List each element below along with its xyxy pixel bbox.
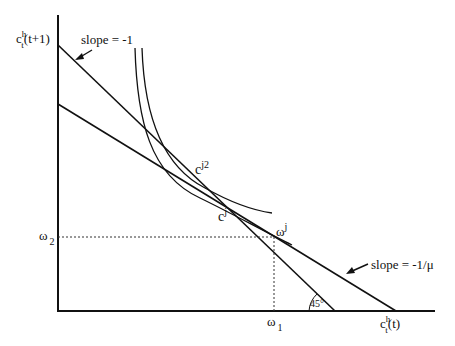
arrow-slope-flat	[346, 264, 368, 274]
omega2-label: ω2	[39, 228, 55, 247]
angle-label: 45°	[310, 298, 324, 309]
slope-flat-label: slope = -1/μ	[371, 257, 434, 272]
arrow-slope-steep	[75, 50, 92, 60]
endowment-label: ωj	[276, 221, 287, 239]
point-cj2-label: cj2	[195, 159, 209, 177]
point-cj-label: cj	[218, 206, 227, 224]
x-axis-label: cht(t)	[380, 314, 400, 335]
y-axis-label: cht(t+1)	[16, 29, 50, 50]
budget-line-slope-minus-one-over-mu	[58, 104, 396, 311]
diagram-canvas: cht(t+1) cht(t) slope = -1 slope = -1/μ …	[0, 0, 455, 346]
indifference-curve-inner	[135, 48, 292, 245]
budget-line-slope-minus-one	[58, 45, 335, 311]
slope-steep-label: slope = -1	[81, 32, 133, 47]
omega1-label: ω1	[267, 314, 283, 333]
